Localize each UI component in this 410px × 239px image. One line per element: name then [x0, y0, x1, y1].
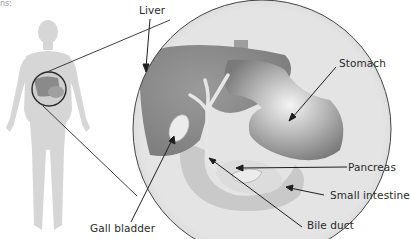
small-magnifier-circle: [32, 72, 66, 106]
label-small-intestine: Small intestine: [330, 189, 410, 201]
label-stomach: Stomach: [339, 57, 386, 69]
label-bile-duct: Bile duct: [307, 219, 354, 231]
label-liver: Liver: [139, 4, 165, 16]
magnified-organs-circle: [133, 0, 391, 239]
label-pancreas: Pancreas: [348, 161, 396, 173]
label-gall-bladder: Gall bladder: [90, 222, 155, 234]
human-body-silhouette: [6, 20, 90, 230]
